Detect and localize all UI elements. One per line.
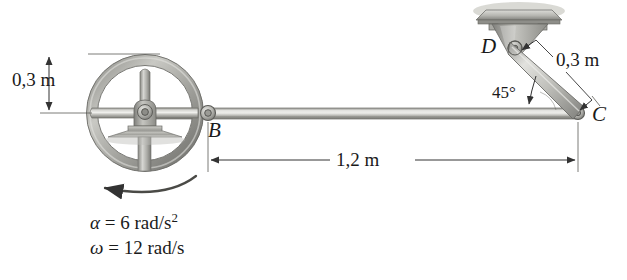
omega-label: ω = 12 rad/s: [90, 238, 184, 257]
rod-length-dimension: [208, 122, 578, 172]
point-c-label: C: [592, 104, 606, 125]
alpha-label: α = 6 rad/s2: [90, 212, 178, 232]
rotation-arrow: [105, 176, 196, 192]
omega-value: = 12 rad/s: [103, 237, 184, 258]
point-b-label: B: [208, 120, 221, 141]
angle-label: 45°: [492, 84, 516, 101]
omega-symbol: ω: [90, 237, 103, 258]
hub-bearing: [134, 100, 156, 126]
rod-length-label: 1,2 m: [336, 150, 379, 169]
alpha-value: = 6 rad/s: [100, 212, 171, 233]
link-length-label: 0,3 m: [556, 50, 599, 69]
flywheel: [87, 55, 204, 172]
wheel-radius-label: 0,3 m: [12, 70, 55, 89]
alpha-symbol: α: [90, 212, 100, 233]
mechanism-figure: 0,3 m 0,3 m 1,2 m 45° B C D α = 6 rad/s2…: [0, 0, 627, 280]
point-d-label: D: [481, 36, 496, 57]
alpha-exponent: 2: [171, 210, 177, 225]
